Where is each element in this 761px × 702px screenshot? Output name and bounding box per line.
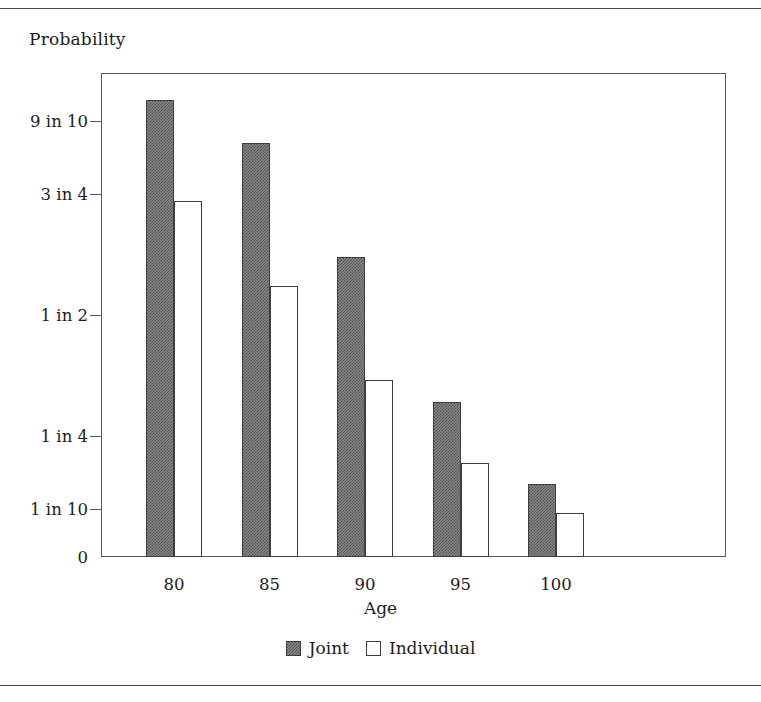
x-tick-label-85: 85: [259, 575, 280, 594]
bar-joint-85: [242, 143, 270, 557]
y-tick-mark: [90, 194, 101, 195]
y-tick-mark: [90, 121, 101, 122]
bar-individual-90: [365, 380, 393, 557]
x-tick-label-80: 80: [164, 575, 185, 594]
y-tick-mark: [90, 436, 101, 437]
plot-area: 01 in 101 in 41 in 23 in 49 in 10: [101, 73, 726, 557]
y-tick-label: 0: [78, 548, 89, 567]
individual-swatch: [366, 641, 381, 656]
bar-individual-85: [270, 286, 298, 557]
bar-joint-95: [433, 402, 461, 557]
legend-item-individual[interactable]: Individual: [366, 638, 475, 658]
x-tick-label-100: 100: [540, 575, 572, 594]
bar-joint-80: [146, 100, 174, 557]
x-tick-label-90: 90: [355, 575, 376, 594]
y-tick-label: 1 in 2: [41, 306, 88, 325]
bar-joint-100: [528, 484, 556, 557]
bar-individual-100: [556, 513, 584, 557]
chart-legend: JointIndividual: [0, 638, 761, 658]
y-tick-label: 3 in 4: [41, 185, 88, 204]
legend-item-joint[interactable]: Joint: [286, 638, 349, 658]
bar-individual-95: [461, 463, 489, 557]
y-tick-label: 1 in 4: [41, 427, 88, 446]
joint-swatch: [286, 641, 301, 656]
y-tick-label: 1 in 10: [30, 499, 88, 518]
y-tick-mark: [90, 315, 101, 316]
bottom-divider: [0, 685, 761, 686]
y-axis-title: Probability: [29, 29, 126, 49]
legend-label: Joint: [309, 638, 349, 658]
bar-joint-90: [337, 257, 365, 557]
legend-label: Individual: [389, 638, 475, 658]
y-tick-label: 9 in 10: [30, 112, 88, 131]
x-tick-label-95: 95: [450, 575, 471, 594]
bar-individual-80: [174, 201, 202, 557]
y-tick-mark: [90, 509, 101, 510]
x-axis-title: Age: [0, 598, 761, 618]
top-divider: [0, 8, 761, 9]
